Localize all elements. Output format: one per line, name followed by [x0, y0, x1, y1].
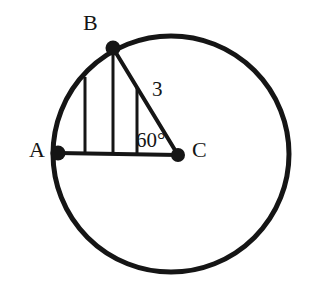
vertex-dot-a — [51, 146, 66, 161]
segment-ac — [58, 153, 178, 155]
vertex-dot-c — [171, 148, 185, 162]
vertex-dot-b — [106, 41, 121, 56]
label-side-length-bc: 3 — [152, 79, 163, 100]
geometry-figure: A B C 3 60° — [0, 0, 319, 296]
label-point-a: A — [29, 139, 45, 161]
label-point-b: B — [83, 12, 98, 34]
label-angle-at-c: 60° — [136, 130, 165, 151]
label-point-c: C — [192, 139, 207, 161]
